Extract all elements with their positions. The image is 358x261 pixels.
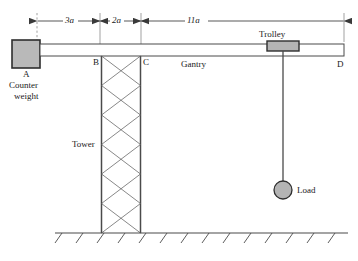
load-mass (274, 181, 292, 199)
tower-bracing (102, 56, 141, 233)
tower-structure (102, 56, 141, 233)
dimension-label-2a: 2a (110, 15, 123, 26)
node-label-b: B (93, 57, 99, 68)
dimension-label-3a: 3a (63, 15, 76, 26)
gantry-label: Gantry (181, 59, 206, 70)
counter-weight-label-line1: Counter (9, 80, 38, 92)
ground-hatching (55, 233, 335, 243)
counter-weight-block (12, 40, 40, 68)
node-label-a: A (23, 69, 30, 80)
ground-line (55, 233, 348, 243)
node-label-c: C (143, 57, 149, 68)
load-label: Load (297, 185, 316, 196)
tower-label: Tower (72, 139, 95, 150)
dimension-label-11a: 11a (185, 15, 202, 26)
trolley-label: Trolley (259, 29, 285, 40)
counter-weight-label-line2: weight (14, 91, 39, 103)
node-label-d: D (337, 59, 344, 70)
diagram-canvas (0, 0, 358, 261)
trolley-block (267, 41, 299, 51)
crane-diagram: 3a 2a 11a A Counter weight B C D Gantry … (0, 0, 358, 261)
